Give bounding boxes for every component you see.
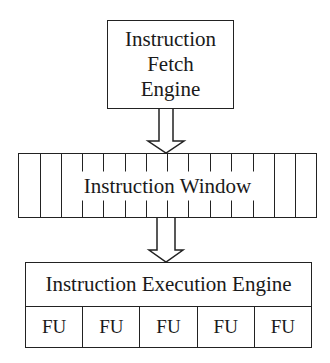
- functional-unit-1: FU: [26, 306, 83, 347]
- functional-unit-4: FU: [198, 306, 255, 347]
- functional-unit-5: FU: [255, 306, 311, 347]
- execution-engine-title: Instruction Execution Engine: [26, 263, 311, 307]
- instruction-execution-engine-box: Instruction Execution Engine FU FU FU FU…: [25, 262, 312, 348]
- functional-unit-3: FU: [140, 306, 197, 347]
- functional-unit-2: FU: [83, 306, 140, 347]
- functional-units-row: FU FU FU FU FU: [26, 306, 311, 347]
